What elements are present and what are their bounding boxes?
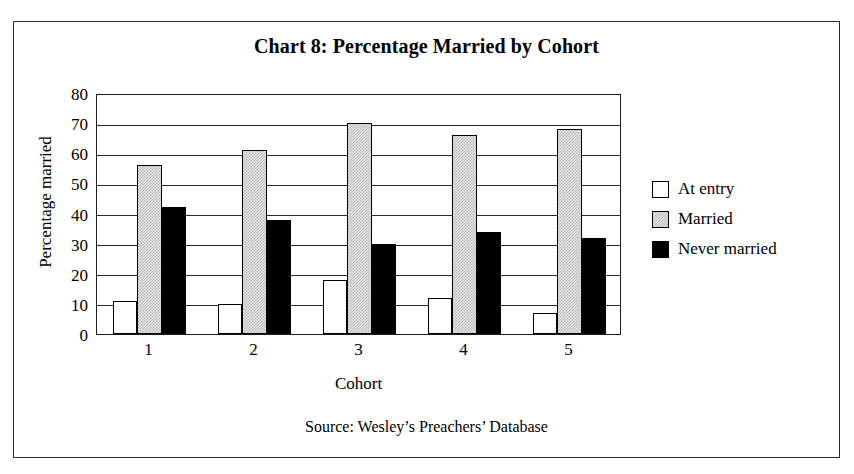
bar-at-entry-cohort-5[interactable] <box>533 313 558 334</box>
bar-at-entry-cohort-4[interactable] <box>428 298 453 334</box>
chart-title: Chart 8: Percentage Married by Cohort <box>14 35 839 58</box>
chart-legend: At entryMarriedNever married <box>652 174 777 264</box>
x-axis-label: Cohort <box>96 374 621 394</box>
y-axis-tick-labels: 01020304050607080 <box>38 94 88 335</box>
bar-married-cohort-2[interactable] <box>242 150 267 334</box>
bar-at-entry-cohort-1[interactable] <box>113 301 138 334</box>
legend-swatch-icon <box>652 211 669 228</box>
bar-group-cohort-1 <box>113 95 187 334</box>
plot-area <box>96 94 621 335</box>
y-tick-label: 20 <box>44 266 88 283</box>
y-tick-label: 40 <box>44 206 88 223</box>
bar-married-cohort-1[interactable] <box>137 165 162 334</box>
y-tick-label: 0 <box>44 327 88 344</box>
bar-at-entry-cohort-3[interactable] <box>323 280 348 334</box>
legend-item-at-entry[interactable]: At entry <box>652 174 777 204</box>
x-tick-label-4: 4 <box>434 340 494 360</box>
bar-group-cohort-5 <box>533 95 607 334</box>
legend-label: Never married <box>678 239 777 259</box>
x-axis-tick-labels: 12345 <box>96 340 621 366</box>
legend-label: Married <box>678 209 733 229</box>
legend-item-never-married[interactable]: Never married <box>652 234 777 264</box>
bar-married-cohort-3[interactable] <box>347 123 372 334</box>
bar-group-cohort-2 <box>218 95 292 334</box>
x-tick-label-3: 3 <box>329 340 389 360</box>
plot-inner <box>97 95 620 334</box>
chart-frame: Chart 8: Percentage Married by Cohort Pe… <box>13 21 840 458</box>
bar-married-cohort-4[interactable] <box>452 135 477 334</box>
bar-group-cohort-3 <box>323 95 397 334</box>
bar-never-married-cohort-1[interactable] <box>162 207 187 334</box>
legend-item-married[interactable]: Married <box>652 204 777 234</box>
x-tick-label-5: 5 <box>539 340 599 360</box>
y-tick-label: 30 <box>44 236 88 253</box>
bar-group-cohort-4 <box>428 95 502 334</box>
legend-swatch-icon <box>652 241 669 258</box>
source-note: Source: Wesley’s Preachers’ Database <box>14 418 839 436</box>
y-tick-label: 50 <box>44 176 88 193</box>
y-tick-label: 60 <box>44 146 88 163</box>
legend-label: At entry <box>678 179 734 199</box>
bar-never-married-cohort-2[interactable] <box>267 220 292 334</box>
bar-never-married-cohort-4[interactable] <box>477 232 502 334</box>
legend-swatch-icon <box>652 181 669 198</box>
y-tick-label: 10 <box>44 296 88 313</box>
bar-never-married-cohort-5[interactable] <box>582 238 607 334</box>
y-tick-label: 70 <box>44 116 88 133</box>
x-tick-label-1: 1 <box>119 340 179 360</box>
y-tick-label: 80 <box>44 86 88 103</box>
bar-at-entry-cohort-2[interactable] <box>218 304 243 334</box>
x-tick-label-2: 2 <box>224 340 284 360</box>
bar-never-married-cohort-3[interactable] <box>372 244 397 334</box>
bar-married-cohort-5[interactable] <box>557 129 582 334</box>
